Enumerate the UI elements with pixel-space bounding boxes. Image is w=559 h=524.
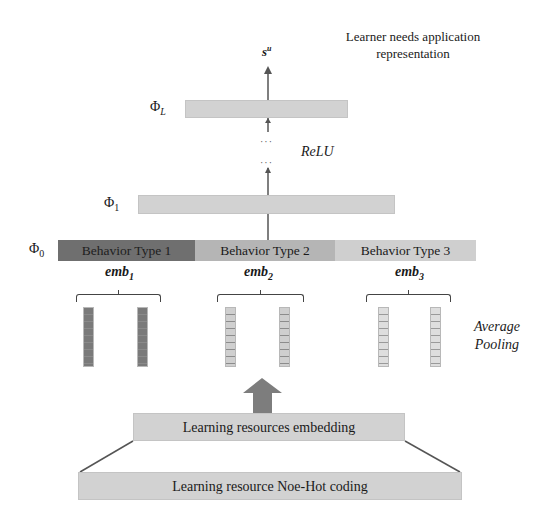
emb-2-label: emb2 (244, 264, 273, 282)
output-symbol: su (262, 44, 272, 60)
phi-symbol: Φ (150, 99, 160, 114)
behavior-type-3-segment: Behavior Type 3 (335, 240, 476, 261)
embedding-vector (378, 307, 389, 367)
up-arrow-icon (243, 378, 282, 414)
emb-base: emb (105, 264, 129, 279)
embedding-vector (225, 307, 236, 367)
connectors (0, 0, 559, 524)
phi-subscript: 0 (39, 248, 44, 259)
output-symbol-sup: u (267, 44, 271, 53)
emb-subscript: 1 (129, 271, 134, 282)
emb-1-label: emb1 (105, 264, 134, 282)
phi-symbol: Φ (29, 241, 39, 256)
relu-label: ReLU (301, 144, 334, 160)
pooling-label: Average Pooling (474, 318, 520, 354)
phi-l-layer (185, 100, 348, 118)
phi-1-label: Φ1 (104, 195, 119, 213)
brace-tick (408, 290, 409, 295)
phi-l-label: ΦL (150, 99, 166, 117)
ellipsis-upper: ··· (260, 136, 273, 147)
emb-subscript: 2 (268, 271, 273, 282)
embedding-vector (137, 307, 148, 367)
ellipsis-lower: ··· (260, 157, 273, 168)
behavior-type-2-segment: Behavior Type 2 (195, 240, 335, 261)
embedding-vector (279, 307, 290, 367)
embedding-layer: Learning resources embedding (133, 413, 405, 441)
title-line-2: representation (323, 45, 503, 62)
title-line-1: Learner needs application (323, 28, 503, 45)
emb-3-label: emb3 (395, 264, 424, 282)
brace-tick (260, 290, 261, 295)
phi-subscript: 1 (114, 202, 119, 213)
brace-emb-3 (366, 294, 451, 302)
diagram-title: Learner needs application representation (323, 28, 503, 62)
embedding-vector (83, 307, 94, 367)
brace-emb-1 (76, 294, 161, 302)
brace-emb-2 (217, 294, 304, 302)
phi-symbol: Φ (104, 195, 114, 210)
emb-base: emb (395, 264, 419, 279)
pooling-line-2: Pooling (474, 336, 520, 354)
brace-tick (118, 290, 119, 295)
emb-subscript: 3 (419, 271, 424, 282)
emb-base: emb (244, 264, 268, 279)
behavior-type-1-segment: Behavior Type 1 (58, 240, 195, 261)
embedding-vector (430, 307, 441, 367)
phi-subscript: L (160, 106, 166, 117)
phi-1-layer (138, 195, 395, 214)
pooling-line-1: Average (474, 318, 520, 336)
onehot-layer: Learning resource Noe-Hot coding (78, 472, 462, 500)
phi-0-label: Φ0 (29, 241, 44, 259)
